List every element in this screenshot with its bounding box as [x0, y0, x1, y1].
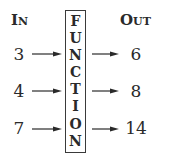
input-header-first: I	[11, 11, 18, 29]
output-value: 8	[124, 81, 148, 101]
arrow-right-icon	[92, 87, 119, 95]
function-letter: N	[66, 47, 85, 64]
input-value: 7	[12, 118, 26, 138]
output-header-first: O	[120, 11, 133, 29]
input-value: 4	[12, 81, 26, 101]
function-letter: U	[66, 30, 85, 47]
output-value: 6	[124, 44, 148, 64]
function-letter: N	[66, 133, 85, 150]
arrow-right-icon	[32, 50, 62, 58]
function-letter: O	[66, 116, 85, 133]
input-header-rest: N	[18, 15, 28, 28]
arrow-right-icon	[32, 125, 62, 133]
arrow-right-icon	[92, 50, 119, 58]
output-header: OUT	[120, 11, 151, 31]
input-value: 3	[12, 44, 26, 64]
arrow-right-icon	[92, 125, 119, 133]
function-letters: F U N C T I O N	[66, 13, 85, 150]
input-header: IN	[11, 11, 28, 31]
function-box: F U N C T I O N	[65, 10, 86, 153]
output-value: 14	[124, 118, 148, 138]
function-letter: T	[66, 81, 85, 98]
function-letter: F	[66, 13, 85, 30]
arrow-right-icon	[32, 87, 62, 95]
function-letter: C	[66, 64, 85, 81]
function-letter: I	[66, 98, 85, 115]
output-header-rest: UT	[133, 15, 151, 28]
